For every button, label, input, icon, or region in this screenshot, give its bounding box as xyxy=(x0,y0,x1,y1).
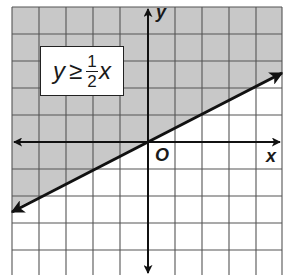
fraction: 1 2 xyxy=(86,53,98,90)
inequality-expression: y ≥ 1 2 x xyxy=(53,53,111,90)
fraction-numerator: 1 xyxy=(87,53,96,70)
coordinate-graph xyxy=(0,0,284,275)
inequality-rhs-var: x xyxy=(99,57,111,85)
y-axis-label: y xyxy=(156,2,166,23)
inequality-label-box: y ≥ 1 2 x xyxy=(40,46,124,96)
origin-label: O xyxy=(155,145,169,166)
greater-equal-symbol: ≥ xyxy=(69,57,82,85)
x-axis-label: x xyxy=(266,146,276,167)
inequality-lhs: y xyxy=(53,57,65,85)
fraction-denominator: 2 xyxy=(87,73,96,90)
